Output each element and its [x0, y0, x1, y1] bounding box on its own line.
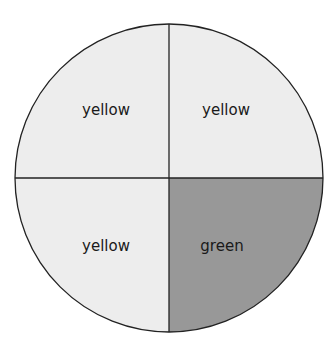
label-bottom-left: yellow	[82, 237, 130, 255]
quadrant-bottom-right	[169, 178, 323, 336]
label-top-right: yellow	[202, 101, 250, 119]
quadrant-bottom-left	[15, 178, 169, 336]
label-top-left: yellow	[82, 101, 130, 119]
quadrant-circle-diagram: yellow yellow yellow green	[0, 0, 334, 355]
label-bottom-right: green	[200, 237, 243, 255]
